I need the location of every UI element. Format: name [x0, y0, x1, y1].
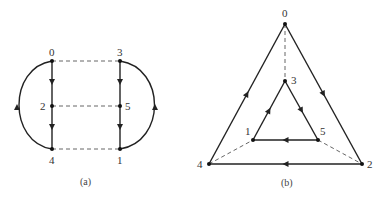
- arrow-icon: [265, 106, 273, 114]
- node-b-1: [251, 138, 255, 142]
- node-b-0: [283, 22, 287, 26]
- node-b-5: [316, 138, 320, 142]
- edge-a-4-0-arc: [19, 61, 52, 149]
- node-a-2: [50, 104, 54, 108]
- arrow-down-icon: [49, 124, 55, 130]
- node-label-a-0: 0: [49, 46, 55, 58]
- node-b-2: [360, 162, 364, 166]
- node-label-a-5: 5: [125, 100, 131, 112]
- node-a-5: [118, 104, 122, 108]
- arrow-icon: [297, 106, 305, 114]
- node-a-0: [50, 59, 54, 63]
- figure-a: 0 2 4 3 5 1 (a): [14, 46, 158, 188]
- node-a-4: [50, 147, 54, 151]
- arrow-icon: [319, 90, 327, 98]
- node-label-a-4: 4: [49, 154, 55, 166]
- node-a-3: [118, 59, 122, 63]
- caption-a: (a): [80, 176, 91, 188]
- node-label-b-0: 0: [282, 7, 288, 19]
- node-label-a-1: 1: [117, 154, 123, 166]
- caption-b: (b): [281, 177, 293, 189]
- arrow-icon: [283, 137, 289, 143]
- node-a-1: [118, 147, 122, 151]
- node-label-b-2: 2: [367, 158, 373, 170]
- arrow-icon: [243, 90, 251, 98]
- figure-b: 0 3 1 5 4 2 (b): [197, 7, 373, 189]
- arrow-down-icon: [117, 124, 123, 130]
- arrow-down-icon: [49, 79, 55, 85]
- node-label-a-3: 3: [117, 46, 123, 58]
- arrow-up-icon: [152, 104, 158, 110]
- node-b-3: [283, 79, 287, 83]
- node-label-b-4: 4: [197, 158, 203, 170]
- node-b-4: [207, 162, 211, 166]
- arrow-down-icon: [117, 79, 123, 85]
- diagram-canvas: 0 2 4 3 5 1 (a): [0, 0, 381, 199]
- node-label-b-5: 5: [320, 125, 326, 137]
- node-label-b-3: 3: [291, 74, 297, 86]
- node-label-a-2: 2: [40, 100, 46, 112]
- node-label-b-1: 1: [245, 125, 251, 137]
- arrow-icon: [283, 161, 289, 167]
